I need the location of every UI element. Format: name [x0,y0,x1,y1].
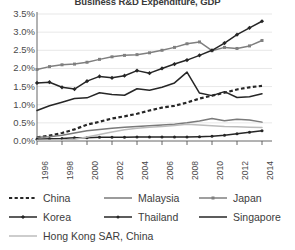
x-axis-tick-label: 2006 [166,161,175,180]
data-point [185,58,189,62]
series-korea [35,19,264,91]
data-point [212,197,215,200]
data-point [236,132,239,135]
x-axis-tick-label: 1996 [41,161,50,180]
data-point [161,136,164,139]
x-axis-tick-label: 2014 [266,161,275,180]
data-point [35,81,39,85]
data-point [111,136,114,139]
legend-label: Thailand [138,211,178,223]
legend-label: Japan [233,192,262,204]
data-point [236,47,239,50]
x-axis-tick-label: 2012 [241,161,250,180]
legend-key-solid [103,192,133,204]
x-axis-ticks [37,141,262,145]
data-point [21,215,25,219]
legend-item-thailand[interactable]: Thailand [103,211,178,223]
data-point [186,42,189,45]
series-line [37,21,262,89]
data-point [111,55,114,58]
legend-label: Singapore [233,211,281,223]
data-point [148,51,151,54]
data-point [223,134,226,137]
data-point [61,63,64,66]
legend-key-solid [8,230,38,242]
series-line [37,40,262,69]
chart-plot-svg [0,10,295,155]
data-point [198,135,201,138]
data-point [123,136,126,139]
data-point [197,53,201,57]
x-axis-tick-label: 2010 [216,161,225,180]
data-point [198,40,201,43]
legend-item-japan[interactable]: Japan [198,192,262,204]
legend-item-china[interactable]: China [8,192,70,204]
data-point [211,135,214,138]
x-axis-tick-labels: 1996199820002002200420062008201020122014 [0,150,295,190]
chart-legend: ChinaMalaysiaJapanKoreaThailandSingapore… [0,192,295,250]
data-point [186,136,189,139]
chart-title: Business R&D Expenditure, GDP [0,0,295,7]
data-point [136,136,139,139]
data-point [173,46,176,49]
x-axis-tick-label: 1998 [66,161,75,180]
data-point [160,66,164,70]
legend-item-hong-kong-sar-china[interactable]: Hong Kong SAR, China [8,230,153,242]
legend-key-solid-square [198,192,228,204]
data-point [135,69,139,73]
data-point [73,63,76,66]
data-point [117,216,120,219]
data-point [98,58,101,61]
data-point [110,76,114,80]
legend-item-malaysia[interactable]: Malaysia [103,192,179,204]
data-point [122,74,126,78]
data-point [60,85,64,89]
data-point [123,54,126,57]
data-point [86,61,89,64]
data-point [147,71,151,75]
data-point [136,53,139,56]
x-axis-tick-label: 2004 [141,161,150,180]
data-point [48,65,51,68]
x-axis-tick-label: 2002 [116,161,125,180]
series-japan [36,39,264,71]
data-point [97,74,101,78]
legend-label: Hong Kong SAR, China [43,230,153,242]
data-point [98,136,101,139]
data-point [161,49,164,52]
data-point [261,129,264,132]
legend-item-korea[interactable]: Korea [8,211,71,223]
data-point [173,136,176,139]
data-point [172,62,176,66]
legend-item-singapore[interactable]: Singapore [198,211,281,223]
data-point [248,131,251,134]
data-point [261,39,264,42]
x-axis-tick-label: 2000 [91,161,100,180]
data-point [223,46,226,49]
legend-row: Hong Kong SAR, China [0,230,295,248]
legend-key-solid [198,211,228,223]
legend-row: ChinaMalaysiaJapan [0,192,295,210]
data-point [36,68,39,71]
data-point [47,80,51,84]
legend-label: Malaysia [138,192,179,204]
data-point [148,136,151,139]
legend-row: KoreaThailandSingapore [0,211,295,229]
legend-key-dotted [8,192,38,204]
legend-label: Korea [43,211,71,223]
chart-root: Business R&D Expenditure, GDP 0.0%0.5%1.… [0,0,295,250]
legend-label: China [43,192,70,204]
x-axis-tick-label: 2008 [191,161,200,180]
legend-key-solid-diamond [8,211,38,223]
legend-key-solid-dot [103,211,133,223]
plot-area [0,10,295,155]
data-point [248,44,251,47]
